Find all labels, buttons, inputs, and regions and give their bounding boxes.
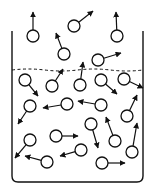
molecule-circle-icon [74,79,86,91]
molecule-liquid [96,157,125,169]
molecule-liquid [78,99,107,111]
molecule-circle-icon [109,135,121,147]
velocity-arrow-icon [43,105,61,108]
velocity-arrow-icon [60,152,75,156]
molecule-circle-icon [121,110,133,122]
molecule-circle-icon [24,134,36,146]
molecule-circle-icon [68,20,80,32]
molecule-circle-icon [111,30,123,42]
molecule-circle-icon [96,157,108,169]
molecule-liquid [18,100,36,124]
molecule-circle-icon [50,130,62,142]
velocity-arrow-icon [81,62,83,79]
molecule-circle-icon [92,54,104,66]
molecule-vapor [68,11,93,32]
molecule-circle-icon [126,146,138,158]
liquid-surface-dashed-line [12,69,143,71]
molecule-liquid [118,73,143,88]
molecule-liquid [74,62,86,91]
velocity-arrow-icon [129,82,143,88]
velocity-arrow-icon [106,84,117,94]
velocity-arrow-icon [130,95,137,111]
velocity-arrow-icon [56,33,62,48]
molecule-liquid [43,98,73,110]
velocity-arrow-icon [133,123,137,146]
molecule-circle-icon [61,98,73,110]
molecule-circle-icon [41,156,53,168]
evaporation-diagram [0,0,152,184]
molecule-circle-icon [118,73,130,85]
molecule-liquid [121,95,137,122]
velocity-arrow-icon [116,12,117,30]
molecule-vapor [27,12,39,42]
velocity-arrow-icon [79,11,93,22]
molecule-circle-icon [75,144,87,156]
molecules-group [15,11,143,169]
velocity-arrow-icon [25,156,41,160]
molecule-vapor [92,53,121,66]
molecule-liquid [50,130,78,142]
molecule-circle-icon [46,80,58,92]
molecule-circle-icon [19,74,31,86]
molecule-circle-icon [27,30,39,42]
molecule-liquid [85,118,98,148]
molecule-vapor [111,12,123,42]
molecule-liquid [126,123,138,158]
velocity-arrow-icon [29,85,38,96]
velocity-arrow-icon [106,117,113,135]
molecule-circle-icon [85,118,97,130]
molecule-liquid [19,74,38,96]
velocity-arrow-icon [15,145,26,158]
velocity-arrow-icon [93,130,98,148]
molecule-circle-icon [58,48,70,60]
molecule-liquid [95,74,117,94]
velocity-arrow-icon [104,53,121,58]
velocity-arrow-icon [18,111,27,124]
molecule-circle-icon [95,99,107,111]
molecule-liquid [25,156,53,168]
molecule-circle-icon [24,100,36,112]
molecule-liquid [60,144,87,156]
molecule-vapor [56,33,70,60]
molecule-liquid [106,117,121,147]
velocity-arrow-icon [78,101,95,104]
molecule-liquid [15,134,36,158]
molecule-circle-icon [95,74,107,86]
molecule-liquid [46,69,63,92]
